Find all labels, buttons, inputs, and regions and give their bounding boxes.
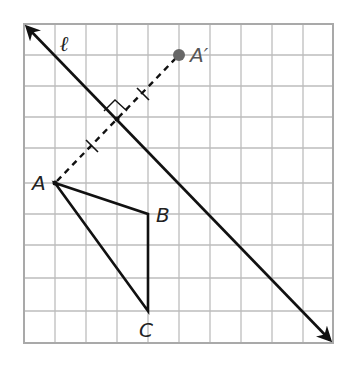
point-a-prime [173,49,185,61]
label-a: A [32,173,46,193]
label-line-l: ℓ [60,33,69,54]
triangle-abc [55,183,148,311]
label-a-prime: A′ [190,45,208,65]
point-a [53,181,58,186]
label-b: B [156,205,170,225]
reflection-diagram [0,0,346,373]
intersection-point [115,117,120,122]
label-c: C [139,320,153,340]
